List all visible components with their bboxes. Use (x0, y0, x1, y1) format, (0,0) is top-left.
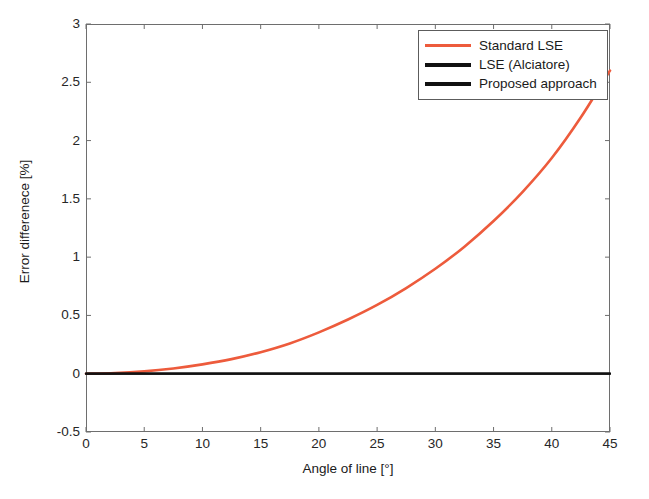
legend-item-label: LSE (Alciatore) (479, 58, 570, 72)
chart-figure: -0.500.511.522.53 051015202530354045 Ang… (0, 0, 649, 499)
x-tick-label: 0 (66, 437, 106, 451)
y-tick-label: 3 (6, 17, 80, 31)
x-tick-label: 40 (532, 437, 572, 451)
legend-item[interactable]: LSE (Alciatore) (425, 55, 601, 74)
legend-line-swatch (425, 82, 471, 86)
x-axis-label: Angle of line [°] (86, 461, 610, 476)
y-tick-label: 2.5 (6, 75, 80, 89)
y-axis-tick-labels: -0.500.511.522.53 (0, 0, 80, 499)
x-tick-label: 10 (182, 437, 222, 451)
x-tick-label: 30 (415, 437, 455, 451)
x-tick-label: 35 (474, 437, 514, 451)
x-tick-label: 15 (241, 437, 281, 451)
legend-item[interactable]: Standard LSE (425, 36, 601, 55)
y-tick-label: 0 (6, 367, 80, 381)
legend-item[interactable]: Proposed approach (425, 74, 601, 93)
x-tick-label: 5 (124, 437, 164, 451)
legend-line-swatch (425, 44, 471, 47)
chart-legend: Standard LSELSE (Alciatore)Proposed appr… (418, 30, 608, 100)
y-axis-label: Error differenece [%] (17, 132, 32, 312)
x-tick-label: 20 (299, 437, 339, 451)
x-tick-label: 25 (357, 437, 397, 451)
legend-item-label: Standard LSE (479, 39, 563, 53)
legend-item-label: Proposed approach (479, 77, 597, 91)
legend-line-swatch (425, 63, 471, 67)
x-tick-label: 45 (590, 437, 630, 451)
